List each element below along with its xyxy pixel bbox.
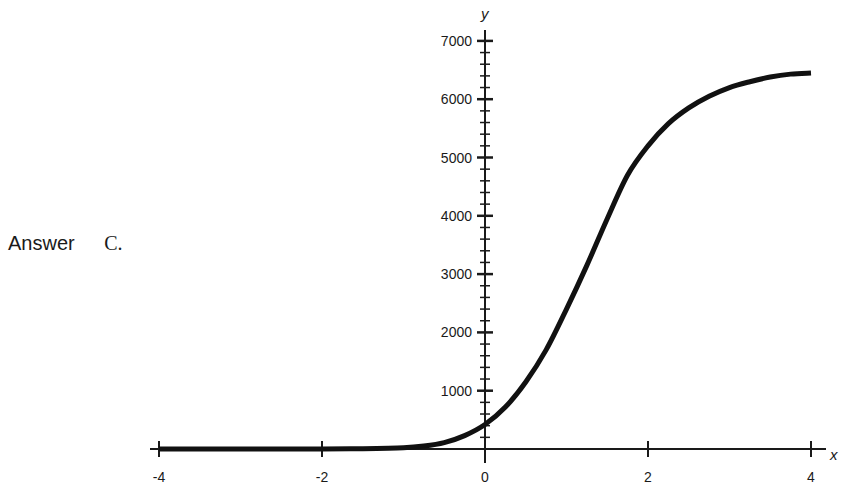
y-tick-label: 2000: [441, 324, 472, 340]
x-tick-label: -2: [316, 469, 329, 485]
x-tick-label: 4: [807, 469, 815, 485]
y-tick-label: 3000: [441, 266, 472, 282]
x-tick-label: -4: [153, 469, 166, 485]
y-tick-label: 7000: [441, 33, 472, 49]
y-tick-label: 4000: [441, 208, 472, 224]
axes: [150, 30, 826, 463]
x-tick-label: 0: [481, 469, 489, 485]
y-tick-label: 5000: [441, 150, 472, 166]
y-axis-label: y: [480, 5, 490, 22]
tick-labels: -4-20241000200030004000500060007000: [153, 33, 815, 485]
y-tick-label: 1000: [441, 383, 472, 399]
logistic-chart: -4-20241000200030004000500060007000 x y: [0, 0, 847, 499]
x-axis-label: x: [829, 446, 838, 463]
y-tick-label: 6000: [441, 91, 472, 107]
x-tick-label: 2: [644, 469, 652, 485]
